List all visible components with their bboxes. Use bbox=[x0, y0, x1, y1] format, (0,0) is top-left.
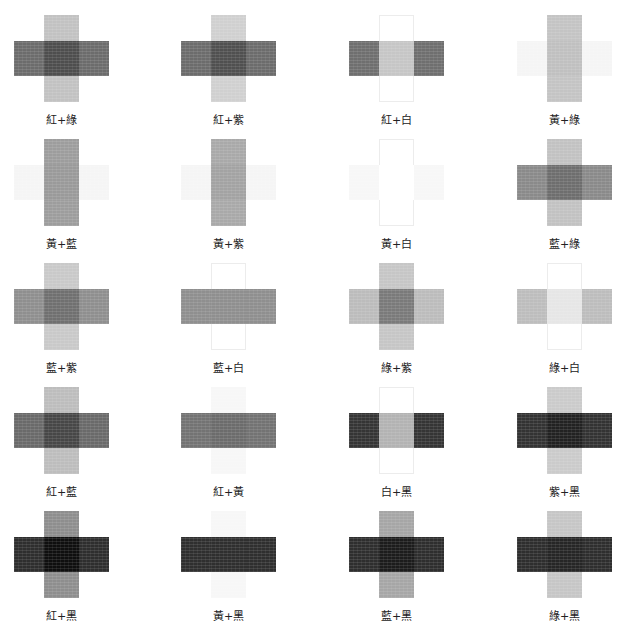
overlap-region bbox=[547, 537, 582, 572]
swatch-label: 藍+綠 bbox=[486, 235, 624, 251]
color-mix-swatch: 藍+黑 bbox=[318, 506, 468, 630]
swatch-label: 黃+白 bbox=[318, 235, 475, 251]
swatch-label: 黃+藍 bbox=[0, 235, 140, 251]
swatch-label: 藍+白 bbox=[150, 359, 307, 375]
swatch-label: 紅+綠 bbox=[0, 111, 140, 127]
color-mix-swatch: 綠+紫 bbox=[318, 258, 468, 382]
swatch-label: 紅+黑 bbox=[0, 607, 140, 623]
color-mix-swatch: 黃+藍 bbox=[0, 134, 133, 258]
swatch-label: 紅+藍 bbox=[0, 483, 140, 499]
overlap-region bbox=[44, 41, 79, 76]
overlap-region bbox=[44, 413, 79, 448]
swatch-label: 紅+紫 bbox=[150, 111, 307, 127]
color-mix-swatch: 紅+紫 bbox=[150, 10, 300, 134]
swatch-label: 黃+綠 bbox=[486, 111, 624, 127]
color-mix-swatch: 綠+黑 bbox=[486, 506, 624, 630]
overlap-region bbox=[379, 413, 414, 448]
overlap-region bbox=[44, 537, 79, 572]
swatch-label: 紅+黃 bbox=[150, 483, 307, 499]
overlap-region bbox=[44, 289, 79, 324]
color-mix-swatch: 黃+綠 bbox=[486, 10, 624, 134]
color-mix-swatch: 藍+白 bbox=[150, 258, 300, 382]
swatch-label: 紅+白 bbox=[318, 111, 475, 127]
color-mix-swatch: 黃+黑 bbox=[150, 506, 300, 630]
color-mix-swatch: 紅+綠 bbox=[0, 10, 133, 134]
overlap-region bbox=[379, 165, 414, 200]
overlap-region bbox=[547, 41, 582, 76]
overlap-region bbox=[211, 165, 246, 200]
swatch-label: 黃+黑 bbox=[150, 607, 307, 623]
swatch-label: 藍+紫 bbox=[0, 359, 140, 375]
color-mix-swatch: 紅+藍 bbox=[0, 382, 133, 506]
swatch-label: 紫+黑 bbox=[486, 483, 624, 499]
overlap-region bbox=[547, 289, 582, 324]
overlap-region bbox=[379, 41, 414, 76]
color-mix-swatch: 綠+白 bbox=[486, 258, 624, 382]
overlap-region bbox=[379, 537, 414, 572]
color-mix-swatch: 藍+綠 bbox=[486, 134, 624, 258]
overlap-region bbox=[211, 289, 246, 324]
overlap-region bbox=[211, 537, 246, 572]
swatch-label: 黃+紫 bbox=[150, 235, 307, 251]
color-mix-swatch: 紅+黑 bbox=[0, 506, 133, 630]
color-mix-swatch: 白+黑 bbox=[318, 382, 468, 506]
overlap-region bbox=[211, 41, 246, 76]
color-mix-swatch: 黃+白 bbox=[318, 134, 468, 258]
overlap-region bbox=[211, 413, 246, 448]
swatch-label: 白+黑 bbox=[318, 483, 475, 499]
color-mix-grid: 紅+綠紅+紫紅+白黃+綠黃+藍黃+紫黃+白藍+綠藍+紫藍+白綠+紫綠+白紅+藍紅… bbox=[0, 0, 624, 641]
color-mix-swatch: 紅+白 bbox=[318, 10, 468, 134]
overlap-region bbox=[379, 289, 414, 324]
color-mix-swatch: 黃+紫 bbox=[150, 134, 300, 258]
swatch-label: 綠+紫 bbox=[318, 359, 475, 375]
swatch-label: 藍+黑 bbox=[318, 607, 475, 623]
swatch-label: 綠+白 bbox=[486, 359, 624, 375]
color-mix-swatch: 紫+黑 bbox=[486, 382, 624, 506]
overlap-region bbox=[547, 165, 582, 200]
color-mix-swatch: 藍+紫 bbox=[0, 258, 133, 382]
overlap-region bbox=[547, 413, 582, 448]
swatch-label: 綠+黑 bbox=[486, 607, 624, 623]
overlap-region bbox=[44, 165, 79, 200]
color-mix-swatch: 紅+黃 bbox=[150, 382, 300, 506]
